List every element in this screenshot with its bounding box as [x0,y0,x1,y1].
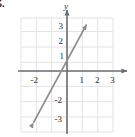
y-tick-label: 1 [60,51,65,61]
x-tick-label: 2 [95,75,100,85]
y-tick-label: -2 [55,95,63,105]
x-tick-label: 3 [110,75,115,85]
y-tick-label: -3 [55,114,63,124]
y-tick-label: 2 [59,36,64,46]
x-tick-label: -2 [31,75,39,85]
coordinate-plane: y -2 1 2 3 3 2 1 -2 -3 [0,0,135,137]
y-axis-label: y [63,1,68,11]
y-tick-labels: 3 2 1 -2 -3 [55,21,65,124]
graph-figure: 5. [0,0,135,137]
y-tick-label: 3 [59,21,64,31]
x-tick-labels: -2 1 2 3 [31,75,116,85]
x-tick-label: 1 [80,75,85,85]
